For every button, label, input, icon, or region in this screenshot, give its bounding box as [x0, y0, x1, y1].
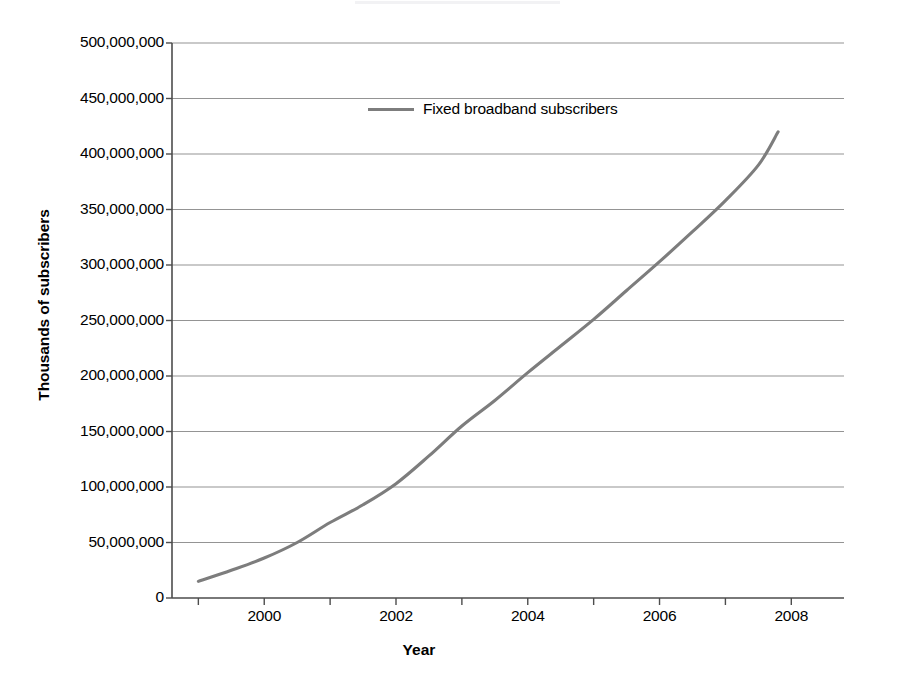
y-tick-label: 150,000,000 [4, 422, 164, 440]
x-axis-tick-marks [198, 598, 791, 605]
y-tick-label: 250,000,000 [4, 311, 164, 329]
y-tick-label: 300,000,000 [4, 255, 164, 273]
x-tick-label: 2004 [483, 607, 573, 625]
x-tick-label: 2002 [351, 607, 441, 625]
x-tick-label: 2006 [615, 607, 705, 625]
chart-figure: Thousands of subscribers 050,000,000100,… [0, 0, 906, 683]
legend-label: Fixed broadband subscribers [423, 100, 618, 118]
title-fragment [355, 1, 560, 4]
y-tick-label: 350,000,000 [4, 200, 164, 218]
plot-area: Fixed broadband subscribers [172, 43, 844, 598]
y-tick-label: 0 [4, 588, 164, 606]
plot-svg [172, 43, 844, 598]
y-axis-tick-labels: 050,000,000100,000,000150,000,000200,000… [0, 0, 164, 683]
y-tick-label: 400,000,000 [4, 144, 164, 162]
y-tick-label: 500,000,000 [4, 33, 164, 51]
x-axis-title: Year [0, 641, 906, 659]
x-axis-title-text: Year [403, 641, 436, 659]
x-axis-tick-labels: 20002002200420062008 [172, 607, 872, 633]
y-tick-label: 100,000,000 [4, 477, 164, 495]
y-axis-tick-marks [166, 43, 172, 598]
x-tick-label: 2008 [746, 607, 836, 625]
x-tick-label: 2000 [219, 607, 309, 625]
y-tick-label: 50,000,000 [4, 533, 164, 551]
series-line-fixed-broadband [198, 132, 778, 582]
y-tick-label: 450,000,000 [4, 89, 164, 107]
legend-line-swatch-icon [368, 108, 414, 111]
chart-legend: Fixed broadband subscribers [368, 100, 618, 118]
y-tick-label: 200,000,000 [4, 366, 164, 384]
